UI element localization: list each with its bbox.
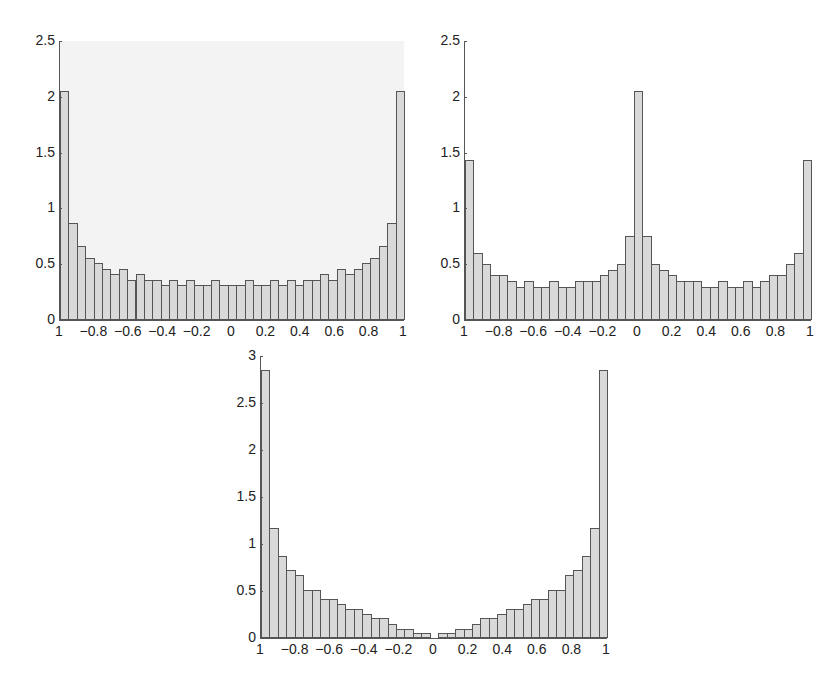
plot-area [59, 41, 404, 321]
histogram-bar [803, 160, 812, 320]
x-tick-label: 1 [806, 324, 814, 338]
x-tick-label: 0.2 [662, 324, 681, 338]
y-tick-label: 0 [25, 312, 55, 326]
y-tick-label: 0 [226, 630, 256, 644]
y-tick-mark [59, 41, 62, 42]
histogram-bar [421, 633, 430, 638]
x-tick-label: 1 [602, 642, 610, 656]
histogram-bar [599, 370, 608, 638]
x-tick-label: −0.6 [519, 324, 547, 338]
y-tick-mark [260, 450, 263, 451]
x-tick-label: 0.2 [458, 642, 477, 656]
x-tick-label: 0.2 [256, 324, 275, 338]
plot-area [260, 356, 607, 639]
y-tick-mark [59, 97, 62, 98]
x-tick-label: 0.6 [527, 642, 546, 656]
y-tick-mark [464, 264, 467, 265]
y-tick-label: 3 [226, 348, 256, 362]
y-tick-mark [464, 320, 467, 321]
y-tick-mark [464, 97, 467, 98]
x-tick-label: −0.4 [350, 642, 378, 656]
y-tick-label: 1 [25, 200, 55, 214]
x-tick-label: 1 [55, 324, 63, 338]
y-tick-mark [464, 153, 467, 154]
x-tick-label: −0.8 [281, 642, 309, 656]
x-tick-label: −0.2 [385, 642, 413, 656]
y-tick-mark [260, 591, 263, 592]
y-tick-label: 2 [25, 89, 55, 103]
x-tick-label: 0.8 [562, 642, 581, 656]
y-tick-mark [260, 403, 263, 404]
x-tick-label: 0.6 [731, 324, 750, 338]
x-tick-label: 0.8 [359, 324, 378, 338]
x-tick-label: 0.4 [290, 324, 309, 338]
x-tick-label: 0.8 [766, 324, 785, 338]
x-tick-label: 0.6 [324, 324, 343, 338]
x-tick-label: −0.6 [114, 324, 142, 338]
y-tick-mark [59, 320, 62, 321]
x-tick-label: 1 [460, 324, 468, 338]
x-tick-label: −0.8 [80, 324, 108, 338]
y-tick-label: 2 [430, 89, 460, 103]
y-tick-label: 1 [226, 536, 256, 550]
y-tick-mark [464, 208, 467, 209]
y-tick-mark [260, 356, 263, 357]
y-tick-label: 1 [430, 200, 460, 214]
y-tick-mark [59, 153, 62, 154]
x-tick-label: −0.4 [554, 324, 582, 338]
y-tick-label: 0.5 [25, 256, 55, 270]
y-tick-label: 2 [226, 442, 256, 456]
x-tick-label: 0 [429, 642, 437, 656]
y-tick-label: 2.5 [226, 395, 256, 409]
x-tick-label: 1 [256, 642, 264, 656]
y-tick-label: 1.5 [226, 489, 256, 503]
x-tick-label: −0.6 [315, 642, 343, 656]
y-tick-label: 0 [430, 312, 460, 326]
x-tick-label: 1 [399, 324, 407, 338]
x-tick-label: 0 [633, 324, 641, 338]
y-tick-mark [260, 497, 263, 498]
x-tick-label: −0.8 [485, 324, 513, 338]
y-tick-mark [464, 41, 467, 42]
y-tick-label: 2.5 [430, 33, 460, 47]
y-tick-mark [59, 208, 62, 209]
x-tick-label: 0.4 [492, 642, 511, 656]
x-tick-label: 0 [227, 324, 235, 338]
y-tick-mark [59, 264, 62, 265]
plot-area [464, 41, 811, 321]
y-tick-mark [260, 544, 263, 545]
y-tick-label: 0.5 [430, 256, 460, 270]
x-tick-label: 0.4 [696, 324, 715, 338]
x-tick-label: −0.4 [148, 324, 176, 338]
y-tick-label: 2.5 [25, 33, 55, 47]
y-tick-label: 0.5 [226, 583, 256, 597]
y-tick-mark [260, 638, 263, 639]
y-tick-label: 1.5 [25, 145, 55, 159]
histogram-bar [396, 91, 405, 320]
x-tick-label: −0.2 [183, 324, 211, 338]
x-tick-label: −0.2 [589, 324, 617, 338]
y-tick-label: 1.5 [430, 145, 460, 159]
